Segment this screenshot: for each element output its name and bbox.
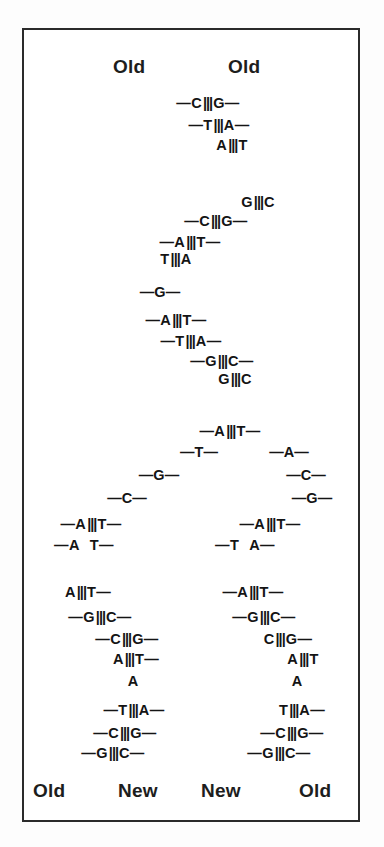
- base-pair-daughter-right-5: A|||T: [287, 651, 318, 667]
- base-pair-daughter-right-0: —A|||T—: [239, 516, 300, 532]
- label-old-bottom-left: Old: [33, 780, 65, 802]
- base-pair-parent-1: —T|||A—: [188, 117, 249, 133]
- base-pair-daughter-left-4: —C|||G—: [95, 631, 159, 647]
- unpaired-base-fork-right-0: —A—: [269, 444, 308, 460]
- base-pair-daughter-right-9: —G|||C—: [247, 745, 311, 761]
- base-pair-parent-7: —A|||T—: [145, 312, 206, 328]
- unpaired-base-daughter-right-6: A: [292, 673, 302, 689]
- label-old-bottom-right: Old: [299, 780, 331, 802]
- base-pair-daughter-right-1: —T A—: [215, 537, 275, 553]
- unpaired-base-fork-left-2: —C—: [107, 490, 146, 506]
- base-pair-parent-6: T|||A: [160, 251, 191, 267]
- base-pair-parent-9: —G|||C—: [190, 353, 254, 369]
- unpaired-base-fork-right-1: —C—: [286, 467, 325, 483]
- unpaired-base-fork-left-1: —G—: [139, 467, 179, 483]
- label-old-top-right: Old: [228, 56, 260, 78]
- base-pair-parent-8: —T|||A—: [160, 333, 221, 349]
- base-pair-daughter-left-3: —G|||C—: [68, 609, 132, 625]
- base-pair-daughter-right-2: —A|||T—: [222, 584, 283, 600]
- base-pair-daughter-left-7: —T|||A—: [103, 702, 164, 718]
- base-pair-parent-5: —A|||T—: [159, 234, 220, 250]
- unpaired-base-fork-right-2: —G—: [292, 490, 332, 506]
- base-pair-parent-10: G|||C: [218, 371, 252, 387]
- unpaired-base-fork-left-0: —T—: [180, 444, 218, 460]
- label-new-bottom-left: New: [118, 780, 158, 802]
- figure-page: Old Old Old New New Old —C|||G——T|||A—A|…: [0, 0, 384, 847]
- base-pair-daughter-left-2: A|||T—: [65, 584, 111, 600]
- base-pair-daughter-left-1: —A T—: [54, 537, 114, 553]
- base-pair-daughter-right-8: —C|||G—: [260, 725, 324, 741]
- label-new-bottom-right: New: [201, 780, 241, 802]
- base-pair-daughter-left-9: —G|||C—: [81, 745, 145, 761]
- base-pair-daughter-left-8: —C|||G—: [93, 725, 157, 741]
- base-pair-parent-11: —A|||T—: [199, 423, 260, 439]
- base-pair-parent-2: A|||T: [216, 137, 247, 153]
- base-pair-daughter-right-3: —G|||C—: [232, 609, 296, 625]
- base-pair-parent-4: —C|||G—: [184, 213, 248, 229]
- unpaired-base-parent-loop-0: —G—: [140, 284, 180, 300]
- base-pair-parent-0: —C|||G—: [176, 95, 240, 111]
- base-pair-daughter-left-0: —A|||T—: [60, 516, 121, 532]
- base-pair-parent-3: G|||C: [241, 194, 275, 210]
- base-pair-daughter-right-4: C|||G—: [264, 631, 313, 647]
- base-pair-daughter-left-5: A|||T—: [113, 651, 159, 667]
- unpaired-base-daughter-left-6: A: [128, 673, 138, 689]
- label-old-top-left: Old: [113, 56, 145, 78]
- base-pair-daughter-right-7: T|||A—: [279, 702, 325, 718]
